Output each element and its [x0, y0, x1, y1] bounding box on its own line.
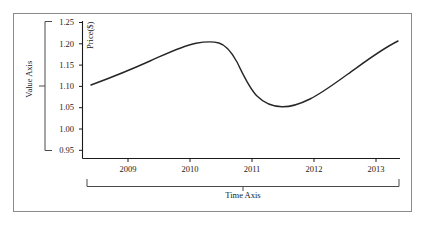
- x-tick-label: 2009: [108, 165, 148, 174]
- y-tick-label: 1.05: [40, 103, 74, 112]
- y-tick-label: 1.00: [40, 125, 74, 134]
- x-tick-label: 2011: [232, 165, 272, 174]
- y-tick-label: 1.10: [40, 82, 74, 91]
- y-axis-inner-title: Price($): [86, 13, 95, 57]
- x-tick-label: 2010: [170, 165, 210, 174]
- chart-figure: 1.25 1.20 1.15 1.10 1.05 1.00 0.95 2009 …: [0, 0, 425, 227]
- y-axis-title: Value Axis: [25, 44, 34, 114]
- x-tick-label: 2012: [294, 165, 334, 174]
- y-tick-label: 1.20: [40, 40, 74, 49]
- y-tick-label: 1.25: [40, 18, 74, 27]
- x-tick-label: 2013: [356, 165, 396, 174]
- y-tick-label: 0.95: [40, 146, 74, 155]
- x-axis-title: Time Axis: [84, 191, 402, 200]
- y-tick-label: 1.15: [40, 61, 74, 70]
- price-series-line: [91, 41, 398, 107]
